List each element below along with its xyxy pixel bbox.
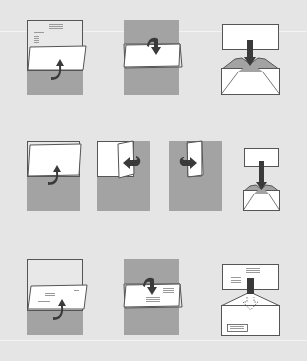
row1-step3-insert-envelope bbox=[221, 25, 280, 95]
envelope-flap bbox=[221, 292, 280, 306]
row3-step2-fold-top-down bbox=[124, 259, 182, 335]
row2-step2-fold-right-in bbox=[97, 141, 150, 211]
row1-step2-fold-top-down bbox=[124, 20, 182, 95]
row3-step1-fold-bottom-up bbox=[27, 260, 87, 336]
row1-step1-fold-bottom-up bbox=[27, 21, 86, 96]
straight-arrow-shaft bbox=[247, 278, 254, 294]
row2-step4-insert-envelope bbox=[243, 149, 280, 211]
row2-step3-fold-left-in bbox=[169, 141, 222, 211]
row2-step1-fold-bottom-up bbox=[27, 142, 81, 212]
folding-diagram bbox=[0, 0, 307, 361]
envelope-body bbox=[222, 69, 280, 95]
row3-step3-insert-window-envelope bbox=[221, 265, 280, 336]
